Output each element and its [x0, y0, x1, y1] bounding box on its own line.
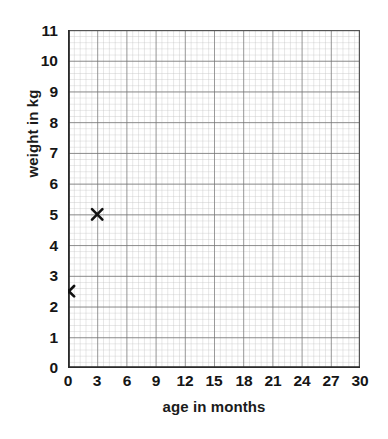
plot-area — [68, 30, 360, 368]
y-tick-label: 10 — [16, 53, 58, 69]
y-tick-label: 9 — [16, 84, 58, 100]
y-tick-label: 1 — [16, 330, 58, 346]
y-tick-label: 11 — [16, 23, 58, 39]
chart-figure: weight in kg 11 10 9 8 7 6 5 4 3 2 1 0 0… — [0, 0, 388, 439]
grid-and-data-svg — [68, 30, 360, 368]
y-tick-label: 4 — [16, 238, 58, 254]
y-tick-label: 2 — [16, 299, 58, 315]
y-tick-label: 8 — [16, 115, 58, 131]
y-tick-label: 6 — [16, 176, 58, 192]
y-tick-label: 7 — [16, 145, 58, 161]
major-gridlines — [68, 30, 360, 368]
x-axis-title: age in months — [68, 398, 360, 415]
x-tick-label: 30 — [340, 373, 380, 389]
y-tick-label: 3 — [16, 268, 58, 284]
y-tick-label: 5 — [16, 207, 58, 223]
